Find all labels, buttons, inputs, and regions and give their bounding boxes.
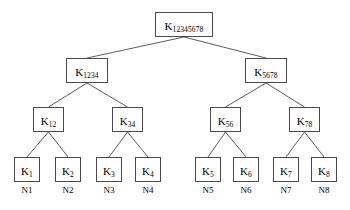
- key-node-label: K4: [142, 162, 154, 178]
- key-node-k5678[interactable]: K5678: [245, 58, 287, 83]
- member-label-n3: N3: [96, 186, 122, 195]
- key-node-subscript: 56: [226, 120, 234, 129]
- key-node-label: K34: [120, 112, 136, 128]
- tree-node-layer: K12345678K1234K5678K12K34K56K78K1K2K3K4K…: [0, 0, 350, 210]
- key-node-k1[interactable]: K1: [14, 157, 40, 182]
- key-node-subscript: 5678: [262, 71, 277, 80]
- key-node-k2[interactable]: K2: [55, 157, 81, 182]
- key-node-label: K7: [280, 162, 292, 178]
- key-node-subscript: 2: [70, 170, 74, 179]
- key-node-subscript: 78: [305, 120, 313, 129]
- key-node-subscript: 4: [150, 170, 154, 179]
- key-node-label: K1234: [75, 63, 98, 79]
- key-node-subscript: 1234: [83, 71, 98, 80]
- key-node-base: K: [21, 165, 29, 177]
- key-node-base: K: [103, 165, 111, 177]
- key-node-label: K56: [218, 112, 234, 128]
- key-node-subscript: 8: [326, 170, 330, 179]
- key-node-subscript: 7: [288, 170, 292, 179]
- key-node-k5[interactable]: K5: [195, 157, 221, 182]
- key-node-label: K6: [240, 162, 252, 178]
- key-node-subscript: 34: [128, 120, 136, 129]
- member-label-n7: N7: [273, 186, 299, 195]
- key-node-label: K12: [41, 112, 57, 128]
- key-node-label: K3: [103, 162, 115, 178]
- key-node-subscript: 1: [29, 170, 33, 179]
- key-node-base: K: [202, 165, 210, 177]
- key-node-label: K5678: [254, 63, 277, 79]
- member-label-n8: N8: [311, 186, 337, 195]
- key-node-subscript: 5: [210, 170, 214, 179]
- key-node-subscript: 3: [111, 170, 115, 179]
- key-node-subscript: 12: [49, 120, 57, 129]
- key-node-k7[interactable]: K7: [273, 157, 299, 182]
- key-node-k1234[interactable]: K1234: [66, 58, 108, 83]
- key-node-label: K78: [297, 112, 313, 128]
- key-node-base: K: [218, 115, 226, 127]
- key-node-label: K1: [21, 162, 33, 178]
- key-node-k78[interactable]: K78: [289, 107, 320, 132]
- member-label-n1: N1: [14, 186, 40, 195]
- key-node-k3[interactable]: K3: [96, 157, 122, 182]
- key-node-base: K: [142, 165, 150, 177]
- key-node-subscript: 12345678: [173, 25, 204, 34]
- key-node-base: K: [62, 165, 70, 177]
- key-node-k12[interactable]: K12: [33, 107, 64, 132]
- member-label-n2: N2: [55, 186, 81, 195]
- key-node-label: K5: [202, 162, 214, 178]
- key-node-base: K: [318, 165, 326, 177]
- key-node-subscript: 6: [248, 170, 252, 179]
- member-label-n6: N6: [233, 186, 259, 195]
- key-node-k6[interactable]: K6: [233, 157, 259, 182]
- key-node-base: K: [41, 115, 49, 127]
- member-label-n4: N4: [135, 186, 161, 195]
- key-node-k8[interactable]: K8: [311, 157, 337, 182]
- key-node-base: K: [120, 115, 128, 127]
- key-node-base: K: [165, 20, 173, 32]
- key-node-base: K: [240, 165, 248, 177]
- key-node-base: K: [297, 115, 305, 127]
- key-hierarchy-diagram: K12345678K1234K5678K12K34K56K78K1K2K3K4K…: [0, 0, 350, 210]
- key-node-label: K8: [318, 162, 330, 178]
- key-node-base: K: [280, 165, 288, 177]
- key-node-k12345678[interactable]: K12345678: [155, 12, 213, 37]
- key-node-k34[interactable]: K34: [112, 107, 143, 132]
- key-node-k4[interactable]: K4: [135, 157, 161, 182]
- key-node-label: K12345678: [165, 17, 204, 33]
- key-node-k56[interactable]: K56: [210, 107, 241, 132]
- member-label-n5: N5: [195, 186, 221, 195]
- key-node-label: K2: [62, 162, 74, 178]
